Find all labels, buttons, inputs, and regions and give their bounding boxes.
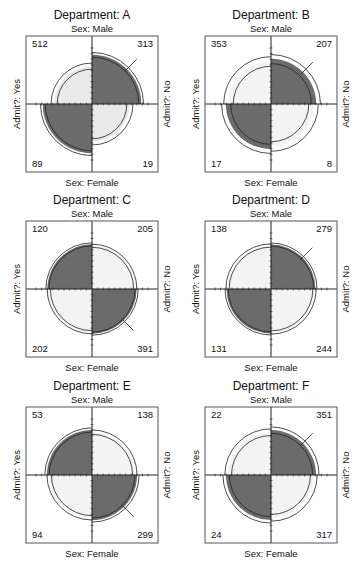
odds-ratio-marker (122, 505, 134, 517)
quadrant-female-no (271, 289, 315, 333)
quadrant-female-yes (43, 104, 92, 153)
cell-count-male-yes: 22 (211, 409, 222, 420)
odds-ratio-marker (301, 433, 313, 445)
column-label-right: Admit?: No (161, 452, 172, 499)
row-label-bottom: Sex: Female (244, 548, 297, 559)
quadrant-female-no (271, 104, 314, 147)
fourfold-chart: Department: ASex: MaleSex: FemaleAdmit?:… (0, 0, 357, 565)
panel-title: Department: B (232, 8, 309, 22)
quadrant-female-yes (227, 289, 271, 333)
row-label-top: Sex: Male (250, 23, 292, 34)
quadrant-male-yes (228, 61, 271, 104)
panel-title: Department: F (233, 379, 310, 393)
cell-count-male-no: 205 (137, 223, 153, 234)
column-label-right: Admit?: No (340, 81, 351, 128)
row-label-top: Sex: Male (250, 208, 292, 219)
quadrant-male-yes (47, 430, 92, 475)
cell-count-female-no: 244 (316, 343, 332, 354)
row-label-bottom: Sex: Female (65, 177, 118, 188)
cell-count-female-yes: 94 (32, 529, 43, 540)
cell-count-male-yes: 120 (32, 223, 48, 234)
cell-count-male-no: 207 (316, 38, 332, 49)
cell-count-female-no: 317 (316, 529, 332, 540)
column-label-right: Admit?: No (161, 81, 172, 128)
cell-count-female-no: 391 (137, 343, 153, 354)
row-label-bottom: Sex: Female (244, 177, 297, 188)
quadrant-female-yes (226, 104, 271, 149)
quadrant-male-yes (47, 244, 92, 289)
cell-count-male-yes: 53 (32, 409, 43, 420)
column-label-left: Admit?: Yes (11, 450, 22, 500)
column-label-left: Admit?: Yes (190, 264, 201, 314)
row-label-top: Sex: Male (71, 23, 113, 34)
quadrant-male-yes (228, 432, 271, 475)
cell-count-female-yes: 202 (32, 343, 48, 354)
panel-a: Department: ASex: MaleSex: FemaleAdmit?:… (11, 8, 172, 188)
cell-count-female-no: 8 (327, 158, 332, 169)
cell-count-male-no: 313 (137, 38, 153, 49)
cell-count-female-no: 19 (142, 158, 153, 169)
cell-count-female-yes: 89 (32, 158, 43, 169)
cell-count-female-no: 299 (137, 529, 153, 540)
panel-title: Department: E (53, 379, 130, 393)
cell-count-male-yes: 353 (211, 38, 227, 49)
quadrant-female-yes (49, 475, 92, 518)
cell-count-male-no: 279 (316, 223, 332, 234)
column-label-left: Admit?: Yes (190, 450, 201, 500)
column-label-right: Admit?: No (161, 266, 172, 313)
quadrant-female-yes (226, 475, 271, 520)
row-label-bottom: Sex: Female (65, 362, 118, 373)
cell-count-male-no: 351 (316, 409, 332, 420)
odds-ratio-marker (300, 248, 312, 260)
panel-c: Department: CSex: MaleSex: FemaleAdmit?:… (11, 193, 172, 373)
quadrant-male-no (92, 246, 135, 289)
quadrant-male-yes (227, 245, 271, 289)
cell-count-female-yes: 17 (211, 158, 222, 169)
panel-title: Department: D (232, 193, 310, 207)
quadrant-male-yes (54, 66, 92, 104)
quadrant-male-no (92, 432, 135, 475)
column-label-left: Admit?: Yes (11, 79, 22, 129)
quadrant-female-no (92, 104, 130, 142)
odds-ratio-marker (301, 62, 313, 74)
cell-count-male-yes: 138 (211, 223, 227, 234)
column-label-left: Admit?: Yes (190, 79, 201, 129)
panel-d: Department: DSex: MaleSex: FemaleAdmit?:… (190, 193, 351, 373)
cell-count-male-no: 138 (137, 409, 153, 420)
row-label-bottom: Sex: Female (65, 548, 118, 559)
panel-title: Department: A (54, 8, 131, 22)
row-label-bottom: Sex: Female (244, 362, 297, 373)
odds-ratio-marker (121, 318, 133, 330)
cell-count-female-yes: 24 (211, 529, 222, 540)
cell-count-female-yes: 131 (211, 343, 227, 354)
panel-b: Department: BSex: MaleSex: FemaleAdmit?:… (190, 8, 351, 188)
column-label-right: Admit?: No (340, 452, 351, 499)
cell-count-male-yes: 512 (32, 38, 48, 49)
quadrant-female-yes (49, 289, 92, 332)
panel-e: Department: ESex: MaleSex: FemaleAdmit?:… (11, 379, 172, 559)
row-label-top: Sex: Male (71, 208, 113, 219)
row-label-top: Sex: Male (71, 394, 113, 405)
quadrant-female-no (271, 475, 314, 518)
row-label-top: Sex: Male (250, 394, 292, 405)
panel-title: Department: C (53, 193, 131, 207)
column-label-right: Admit?: No (340, 266, 351, 313)
column-label-left: Admit?: Yes (11, 264, 22, 314)
panel-f: Department: FSex: MaleSex: FemaleAdmit?:… (190, 379, 351, 559)
